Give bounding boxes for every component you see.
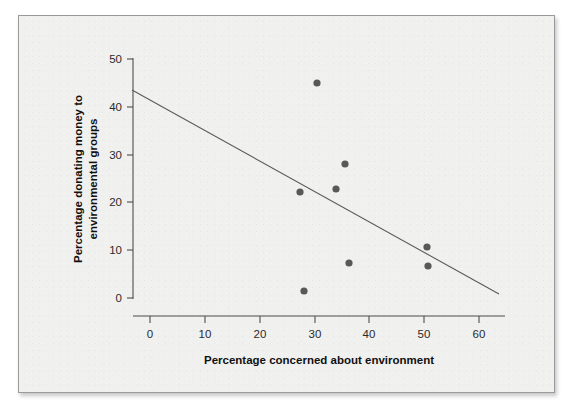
data-point (296, 188, 303, 195)
y-axis-title-line-2: environmental groups (87, 119, 99, 240)
data-point (423, 243, 430, 250)
x-tick-label-50: 50 (418, 328, 431, 340)
scatter-plot: 0 10 20 30 40 50 0 10 20 30 40 (19, 16, 555, 393)
data-points (296, 79, 431, 294)
x-tick-label-10: 10 (199, 328, 212, 340)
x-tick-label-30: 30 (309, 328, 322, 340)
chart-panel: 0 10 20 30 40 50 0 10 20 30 40 (18, 15, 555, 393)
data-point (345, 259, 352, 266)
y-tick-label-20: 20 (109, 196, 122, 208)
y-tick-label-40: 40 (109, 101, 122, 113)
x-tick-label-20: 20 (254, 328, 267, 340)
y-tick-label-10: 10 (109, 244, 122, 256)
x-tick-label-40: 40 (363, 328, 376, 340)
data-point (424, 262, 431, 269)
x-axis-ticks: 0 10 20 30 40 50 60 (147, 316, 486, 340)
y-tick-label-30: 30 (109, 149, 122, 161)
x-tick-label-60: 60 (473, 328, 486, 340)
y-axis-ticks: 0 10 20 30 40 50 (109, 53, 133, 304)
data-point (341, 160, 348, 167)
figure-root: 0 10 20 30 40 50 0 10 20 30 40 (0, 0, 573, 414)
y-tick-label-0: 0 (116, 292, 122, 304)
data-point (332, 185, 339, 192)
x-tick-label-0: 0 (147, 328, 153, 340)
x-axis-title: Percentage concerned about environment (204, 354, 434, 366)
y-tick-label-50: 50 (109, 53, 122, 65)
trend-line (132, 90, 499, 294)
data-point (313, 79, 320, 86)
data-point (300, 287, 307, 294)
y-axis-title-line-1: Percentage donating money to (72, 95, 84, 263)
